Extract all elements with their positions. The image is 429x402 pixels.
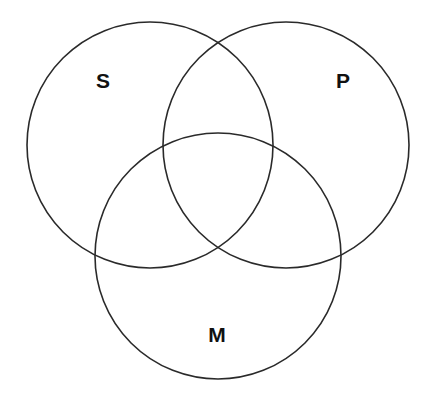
label-p: P (336, 69, 350, 92)
label-s: S (96, 69, 110, 92)
label-m: M (208, 323, 226, 346)
circle-s (27, 22, 273, 268)
venn-diagram: S P M (0, 0, 429, 402)
circle-p (163, 22, 409, 268)
